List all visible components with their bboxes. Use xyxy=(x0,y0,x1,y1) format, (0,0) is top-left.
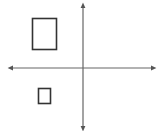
coordinate-plane-diagram xyxy=(0,0,161,131)
small-rectangle xyxy=(39,89,51,104)
large-rectangle xyxy=(33,19,57,50)
